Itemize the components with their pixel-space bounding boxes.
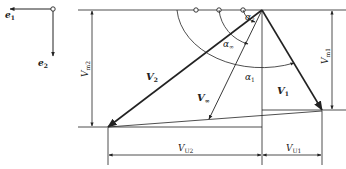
vu2-label: VU2 [178,143,194,154]
vm1-label: Vm1 [320,48,331,64]
tip-connector-line [108,111,322,127]
alpha1-arc [177,10,294,68]
origin-point [51,7,55,11]
v2-vector [108,10,262,127]
v2-label: V2 [146,71,158,83]
angle-origin-2 [194,8,198,12]
alpha1-label: α1 [245,72,255,83]
e2-label: e2 [38,58,48,69]
velocity-triangle-diagram: e1 e2 α2 α∞ α1 V2 V∞ V1 Vm2 Vm1 VU2 VU1 [0,0,346,169]
vu1-label: VU1 [286,143,301,154]
v1-label: V1 [277,85,289,97]
vm2-label: Vm2 [80,61,91,77]
alpha2-label: α2 [245,12,255,23]
alpham-label: α∞ [223,39,234,50]
vinf-label: V∞ [197,92,210,104]
e1-label: e1 [5,10,15,21]
v1-vector [262,10,322,110]
coordinate-axes: e1 e2 [5,7,55,69]
